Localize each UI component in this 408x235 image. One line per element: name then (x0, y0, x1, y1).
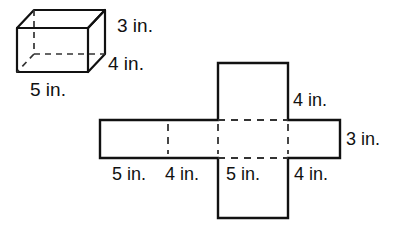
net-right-height-label: 3 in. (346, 130, 380, 148)
geometry-figure: 3 in. 4 in. 5 in. 4 in. 3 in. 5 in. 4 in… (0, 0, 408, 235)
prism-width-label: 5 in. (30, 80, 66, 99)
prism-hidden-diagonal (17, 54, 34, 72)
net-top-right-flap-label: 4 in. (293, 91, 327, 109)
prism-drawing (17, 10, 105, 72)
net-bottom-label-4: 4 in. (294, 165, 328, 183)
net-fold-lines (168, 120, 288, 158)
net-outline (100, 63, 340, 218)
prism-right-face (88, 10, 105, 72)
prism-depth-label: 4 in. (108, 54, 144, 73)
net-bottom-label-1: 5 in. (112, 165, 146, 183)
net-cross-path (100, 63, 340, 218)
net-bottom-label-2: 4 in. (165, 165, 199, 183)
figure-canvas (0, 0, 408, 235)
prism-front-face (17, 28, 88, 72)
prism-height-label: 3 in. (117, 16, 153, 35)
net-bottom-label-3: 5 in. (226, 165, 260, 183)
prism-hidden-edges (17, 10, 105, 72)
